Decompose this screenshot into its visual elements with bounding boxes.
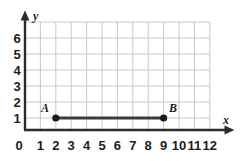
y-tick-label: 2 bbox=[13, 95, 20, 110]
point-a-label: A bbox=[40, 101, 49, 115]
y-axis-arrow-icon bbox=[21, 11, 30, 21]
axis-names: y x bbox=[31, 9, 229, 127]
y-tick-label: 6 bbox=[13, 31, 20, 46]
coordinate-plane-svg: A B y x 0 1 2 3 4 5 6 7 8 9 10 11 12 1 2 bbox=[0, 0, 246, 161]
y-axis-label: y bbox=[31, 9, 39, 23]
x-tick-label: 4 bbox=[83, 138, 91, 153]
point-labels: A B bbox=[40, 101, 177, 115]
x-tick-label: 1 bbox=[37, 138, 44, 153]
x-axis-label: x bbox=[222, 113, 229, 127]
y-tick-label: 3 bbox=[13, 79, 20, 94]
point-b-label: B bbox=[168, 101, 177, 115]
origin-label: 0 bbox=[15, 138, 22, 153]
x-tick-label: 10 bbox=[172, 138, 186, 153]
x-tick-label: 11 bbox=[188, 138, 202, 153]
grid-lines bbox=[25, 22, 210, 130]
x-tick-label: 9 bbox=[160, 138, 167, 153]
y-tick-label: 5 bbox=[13, 47, 20, 62]
coordinate-plane-figure: A B y x 0 1 2 3 4 5 6 7 8 9 10 11 12 1 2 bbox=[0, 0, 246, 161]
point-b-marker bbox=[160, 114, 167, 121]
x-tick-label: 2 bbox=[52, 138, 59, 153]
x-tick-label: 7 bbox=[129, 138, 136, 153]
y-tick-label: 1 bbox=[13, 111, 20, 126]
point-a-marker bbox=[52, 114, 59, 121]
x-tick-label: 3 bbox=[68, 138, 75, 153]
y-tick-labels: 1 2 3 4 5 6 bbox=[13, 31, 21, 126]
x-tick-label: 6 bbox=[114, 138, 121, 153]
x-tick-label: 5 bbox=[98, 138, 105, 153]
y-tick-label: 4 bbox=[13, 63, 21, 78]
x-tick-label: 12 bbox=[203, 138, 217, 153]
axes bbox=[21, 11, 235, 135]
x-tick-label: 8 bbox=[145, 138, 152, 153]
x-tick-labels: 1 2 3 4 5 6 7 8 9 10 11 12 bbox=[37, 138, 217, 153]
